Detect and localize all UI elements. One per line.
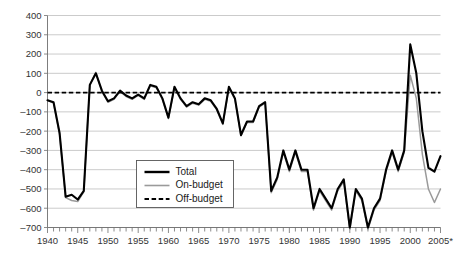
x-axis-tick-label: 2000: [400, 235, 421, 246]
x-axis-tick-label: 1945: [67, 235, 88, 246]
y-axis-tick-label: 0: [36, 87, 41, 98]
budget-surplus-deficit-line-chart: 4003002001000–100–200–300–400–500–600–70…: [0, 0, 457, 261]
y-axis-tick-label: –600: [20, 203, 41, 214]
x-axis-tick-label: 1975: [249, 235, 270, 246]
y-axis-tick-label: –700: [20, 222, 41, 233]
series-line-on-budget: [48, 72, 441, 229]
x-axis-tick-label: 1995: [369, 235, 390, 246]
x-axis-tick-marks: [48, 228, 441, 234]
y-axis-tick-label: –400: [20, 164, 41, 175]
y-axis-tick-label: –300: [20, 145, 41, 156]
x-axis-tick-label: 1980: [279, 235, 300, 246]
chart-container: 4003002001000–100–200–300–400–500–600–70…: [0, 0, 457, 261]
legend-label-total: Total: [176, 166, 197, 177]
x-axis-tick-label: 1965: [188, 235, 209, 246]
x-axis-tick-labels: 1940194519501955196019651970197519801985…: [37, 235, 453, 246]
y-axis-tick-labels: 4003002001000–100–200–300–400–500–600–70…: [20, 10, 47, 233]
y-axis-tick-label: 400: [26, 10, 42, 21]
x-axis-tick-label: 1990: [339, 235, 360, 246]
legend-label-on-budget: On-budget: [176, 179, 223, 190]
data-series: [48, 44, 441, 229]
y-axis-tick-label: 100: [26, 68, 42, 79]
chart-legend: TotalOn-budgetOff-budget: [137, 161, 234, 208]
legend-label-off-budget: Off-budget: [176, 193, 223, 204]
x-axis-tick-label: 1985: [309, 235, 330, 246]
y-axis-tick-label: –200: [20, 126, 41, 137]
x-axis-tick-label: 2005*: [428, 235, 453, 246]
y-axis-tick-label: –500: [20, 183, 41, 194]
y-axis-tick-label: –100: [20, 106, 41, 117]
series-line-total: [48, 44, 441, 227]
x-axis-tick-label: 1950: [97, 235, 118, 246]
x-axis-tick-label: 1940: [37, 235, 58, 246]
y-axis-tick-label: 200: [26, 48, 42, 59]
x-axis-tick-label: 1955: [128, 235, 149, 246]
x-axis-tick-label: 1970: [218, 235, 239, 246]
x-axis-tick-label: 1960: [158, 235, 179, 246]
y-axis-tick-label: 300: [26, 29, 42, 40]
